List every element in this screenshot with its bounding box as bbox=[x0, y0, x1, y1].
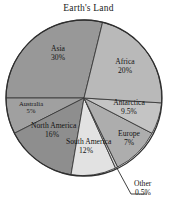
slice-label-north-america: North America 16% bbox=[31, 122, 73, 139]
slice-label-asia: Asia 30% bbox=[38, 45, 78, 62]
slice-percent-africa: 20% bbox=[104, 67, 146, 76]
slice-percent-antarctica: 9.5% bbox=[104, 108, 154, 117]
slice-percent-asia: 30% bbox=[38, 54, 78, 63]
slice-label-antarctica: Antarctica 9.5% bbox=[104, 99, 154, 116]
slice-label-australia: Australia 5% bbox=[9, 100, 53, 115]
slice-percent-south-america: 12% bbox=[66, 147, 106, 156]
slice-percent-europe: 7% bbox=[112, 139, 146, 148]
slice-name-australia: Australia bbox=[9, 100, 53, 107]
slice-percent-north-america: 16% bbox=[31, 131, 73, 140]
slice-label-south-america: South America 12% bbox=[66, 138, 106, 155]
slice-percent-other: 0.5% bbox=[135, 189, 174, 198]
slice-label-other: Other 0.5% bbox=[134, 180, 174, 197]
slice-label-europe: Europe 7% bbox=[112, 130, 146, 147]
slice-label-africa: Africa 20% bbox=[104, 58, 146, 75]
pie-chart-figure: Earth's Land Asia 30% Africa 20% Antarct… bbox=[0, 0, 177, 206]
slice-percent-australia: 5% bbox=[9, 107, 53, 114]
